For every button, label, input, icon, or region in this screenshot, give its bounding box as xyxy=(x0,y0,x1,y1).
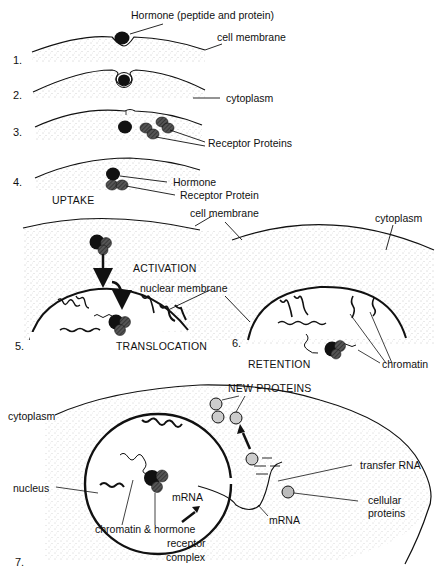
step-number: 2. xyxy=(13,89,22,101)
label-transfer-rna: transfer RNA xyxy=(360,459,421,471)
label-chromatin: chromatin xyxy=(382,358,428,370)
label-receptor-protein: Receptor Protein xyxy=(180,189,259,201)
label-chromatin-complex-2: receptor xyxy=(167,537,206,549)
protein-icon xyxy=(246,453,258,465)
step-number: 1. xyxy=(13,54,22,66)
phase-translocation: TRANSLOCATION xyxy=(116,340,207,352)
protein-icon xyxy=(282,486,294,498)
label-receptor-proteins: Receptor Proteins xyxy=(208,137,292,149)
stage-1 xyxy=(32,24,222,62)
step-number: 7. xyxy=(15,556,24,568)
stage-5 xyxy=(23,216,232,344)
label-nuclear-membrane: nuclear membrane xyxy=(140,282,228,294)
label-chromatin-complex-3: complex xyxy=(166,551,205,563)
protein-icon xyxy=(212,411,224,423)
step-number: 5. xyxy=(15,340,24,352)
stage-7 xyxy=(45,385,431,564)
phase-retention: RETENTION xyxy=(248,358,310,370)
label-chromatin-complex-1: chromatin & hormone xyxy=(95,523,195,535)
label-cytoplasm-7: cytoplasm xyxy=(8,410,55,422)
step-number: 4. xyxy=(13,176,22,188)
label-cellular-proteins-1: cellular xyxy=(368,494,401,506)
label-hormone: Hormone (peptide and protein) xyxy=(131,9,274,21)
label-new-proteins: NEW PROTEINS xyxy=(228,382,312,394)
label-nucleus: nucleus xyxy=(13,482,49,494)
step-number: 3. xyxy=(13,126,22,138)
protein-icon xyxy=(230,412,242,424)
stage-2 xyxy=(33,70,220,98)
label-cytoplasm: cytoplasm xyxy=(226,92,273,104)
label-cytoplasm-6: cytoplasm xyxy=(375,212,422,224)
label-mrna-outer: mRNA xyxy=(269,514,300,526)
label-cell-membrane-5: cell membrane xyxy=(190,207,259,219)
protein-icon xyxy=(210,398,222,410)
label-hormone-4: Hormone xyxy=(173,176,216,188)
stage-6 xyxy=(225,222,434,363)
stage-3 xyxy=(35,110,205,147)
label-mrna-inner: mRNA xyxy=(172,491,203,503)
phase-activation: ACTIVATION xyxy=(133,262,196,274)
phase-uptake: UPTAKE xyxy=(52,194,94,206)
label-cellular-proteins-2: proteins xyxy=(368,507,405,519)
hormone-icon xyxy=(118,75,130,86)
label-cell-membrane: cell membrane xyxy=(217,31,286,43)
hormone-icon xyxy=(115,32,130,45)
hormone-icon xyxy=(106,168,120,181)
hormone-icon xyxy=(118,121,132,134)
step-number: 6. xyxy=(232,337,241,349)
